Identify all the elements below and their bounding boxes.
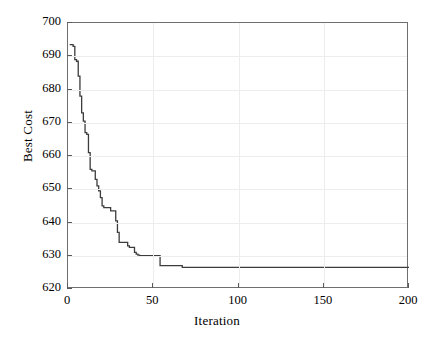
- x-tick-label: 150: [293, 294, 353, 307]
- x-tick: [323, 283, 324, 288]
- y-tick: [67, 55, 72, 56]
- y-tick: [67, 222, 72, 223]
- gridline-horizontal: [68, 223, 407, 224]
- x-tick: [238, 283, 239, 288]
- gridline-horizontal: [68, 90, 407, 91]
- chart-figure: 050100150200 620630640650660670680690700…: [0, 0, 434, 343]
- gridline-horizontal: [68, 123, 407, 124]
- x-tick: [408, 283, 409, 288]
- gridline-vertical: [239, 23, 240, 287]
- y-tick: [67, 188, 72, 189]
- gridline-vertical: [324, 23, 325, 287]
- x-tick-label: 0: [37, 294, 97, 307]
- y-tick: [67, 22, 72, 23]
- x-tick-label: 50: [122, 294, 182, 307]
- y-tick-label: 700: [21, 15, 61, 28]
- y-tick: [67, 122, 72, 123]
- y-tick-label: 640: [21, 215, 61, 228]
- x-tick-label: 200: [378, 294, 434, 307]
- plot-area: [67, 22, 408, 288]
- gridline-horizontal: [68, 256, 407, 257]
- y-tick-label: 620: [21, 281, 61, 294]
- x-axis-title: Iteration: [0, 313, 434, 329]
- gridline-vertical: [153, 23, 154, 287]
- x-tick: [152, 283, 153, 288]
- y-tick-label: 690: [21, 48, 61, 61]
- gridline-horizontal: [68, 56, 407, 57]
- y-tick: [67, 288, 72, 289]
- y-axis-title: Best Cost: [20, 86, 36, 186]
- y-tick: [67, 255, 72, 256]
- y-tick: [67, 89, 72, 90]
- gridline-horizontal: [68, 156, 407, 157]
- gridline-horizontal: [68, 189, 407, 190]
- y-tick: [67, 155, 72, 156]
- x-tick-label: 100: [208, 294, 268, 307]
- y-tick-label: 630: [21, 248, 61, 261]
